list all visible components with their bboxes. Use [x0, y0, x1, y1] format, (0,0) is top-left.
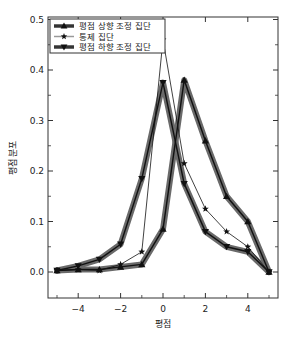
- series-lines: [57, 40, 269, 272]
- series-line: [57, 83, 269, 272]
- legend-label: 평점 상향 조정 집단: [79, 21, 151, 31]
- plot-border: [48, 17, 278, 298]
- x-tick-label: 0: [160, 304, 166, 314]
- series-line: [57, 40, 269, 272]
- legend-label: 통제 집단: [79, 32, 114, 42]
- y-tick-label: 0.5: [30, 15, 44, 25]
- legend-label: 평점 하향 조정 집단: [79, 42, 151, 52]
- plot-frame: [48, 17, 278, 298]
- legend: 평점 상향 조정 집단통제 집단평점 하향 조정 집단: [50, 19, 165, 53]
- x-tick-label: −4: [72, 304, 86, 314]
- series-markers: [53, 36, 272, 276]
- confidence-bands: [57, 80, 269, 272]
- x-tick-label: −2: [114, 304, 127, 314]
- y-tick-label: 0.3: [30, 116, 44, 126]
- y-axis-ticks: 0.00.10.20.30.40.5: [30, 15, 278, 278]
- series-band: [57, 83, 269, 272]
- series-line: [57, 80, 269, 272]
- data-point-star: [138, 248, 145, 255]
- line-chart: −4−2024 0.00.10.20.30.40.5 평점 평점 분포 평점 상…: [0, 0, 290, 338]
- data-point-star: [202, 205, 209, 212]
- y-axis-title: 평점 분포: [7, 141, 18, 176]
- x-tick-label: 2: [203, 304, 209, 314]
- y-tick-label: 0.4: [30, 65, 45, 75]
- y-tick-label: 0.2: [30, 166, 44, 176]
- series-band: [57, 80, 269, 272]
- x-tick-label: 4: [245, 304, 251, 314]
- y-tick-label: 0.0: [30, 267, 45, 277]
- y-tick-label: 0.1: [30, 217, 44, 227]
- x-axis-title: 평점: [155, 318, 171, 329]
